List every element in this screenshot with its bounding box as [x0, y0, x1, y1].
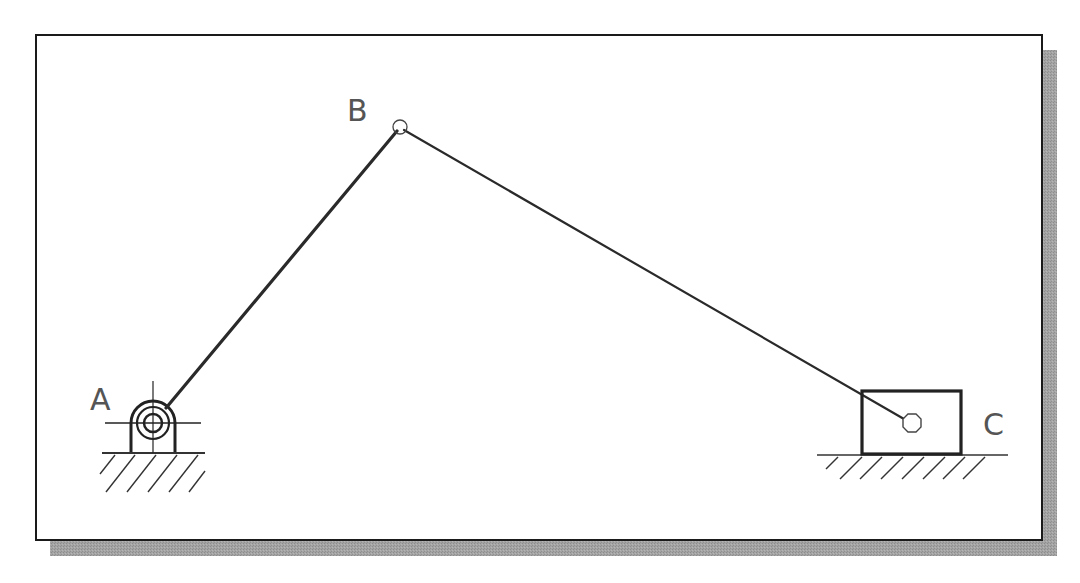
- label-b: B: [347, 93, 368, 128]
- diagram-frame: [36, 35, 1042, 540]
- slider-crank-diagram: A B C: [0, 0, 1080, 583]
- joint-b: [393, 120, 407, 134]
- joint-c: [903, 414, 921, 432]
- label-c: C: [983, 407, 1004, 442]
- label-a: A: [90, 382, 111, 417]
